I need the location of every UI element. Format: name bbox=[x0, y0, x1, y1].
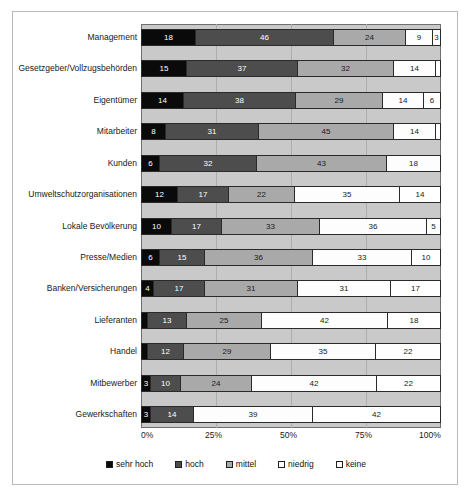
bar-segment-value: 33 bbox=[358, 253, 367, 262]
bar-segment-value: 6 bbox=[148, 159, 152, 168]
category-label: Eigentümer bbox=[0, 92, 137, 109]
bar-segment: 12 bbox=[147, 343, 183, 360]
bar-segment-value: 29 bbox=[335, 96, 344, 105]
bar-segment-value: 24 bbox=[212, 379, 221, 388]
bar-segment: 29 bbox=[295, 92, 382, 109]
legend-label: niedrig bbox=[288, 459, 314, 469]
bar-segment-value: 14 bbox=[168, 410, 177, 419]
table-row: 12293522 bbox=[141, 343, 441, 360]
bar-segment: 18 bbox=[386, 155, 441, 172]
bar-segment: 29 bbox=[183, 343, 270, 360]
bar-segment: 32 bbox=[159, 155, 256, 172]
bar-segment-value: 14 bbox=[410, 127, 419, 136]
bar-segment-value: 14 bbox=[399, 96, 408, 105]
legend-item[interactable]: mittel bbox=[226, 459, 256, 469]
x-tick-label: 25% bbox=[205, 430, 222, 440]
bar-segment: 3 bbox=[141, 375, 150, 392]
chart-legend: sehr hochhochmittelniedrigkeine bbox=[13, 455, 459, 473]
legend-swatch-icon bbox=[226, 461, 233, 468]
table-row: 417313117 bbox=[141, 280, 441, 297]
table-row: 3143942 bbox=[141, 406, 441, 423]
bar-segment-value: 36 bbox=[369, 222, 378, 231]
chart-frame: Management18462493Gesetzgeber/Vollzugsbe… bbox=[12, 11, 458, 485]
bar-segment: 9 bbox=[405, 29, 432, 46]
bar-segment-value: 46 bbox=[260, 33, 269, 42]
table-row: 13254218 bbox=[141, 312, 441, 329]
bar-segment: 14 bbox=[382, 92, 423, 109]
bar-segment-value: 17 bbox=[411, 284, 420, 293]
bar-segment: 10 bbox=[141, 218, 171, 235]
legend-label: sehr hoch bbox=[116, 459, 153, 469]
bar-segment-value: 39 bbox=[249, 410, 258, 419]
legend-item[interactable]: hoch bbox=[175, 459, 203, 469]
legend-swatch-icon bbox=[106, 461, 113, 468]
bar-segment-value: 6 bbox=[148, 253, 152, 262]
legend-item[interactable]: niedrig bbox=[278, 459, 314, 469]
bar-segment: 14 bbox=[393, 123, 435, 140]
bar-segment: 35 bbox=[270, 343, 375, 360]
category-label: Lokale Bevölkerung bbox=[0, 218, 137, 235]
legend-item[interactable]: sehr hoch bbox=[106, 459, 153, 469]
table-row: 18462493 bbox=[141, 29, 441, 46]
bar-segment-value: 15 bbox=[178, 253, 187, 262]
bar-segment: 12 bbox=[141, 186, 177, 203]
bar-segment-value: 45 bbox=[322, 127, 331, 136]
bar-segment: 36 bbox=[319, 218, 426, 235]
bar-segment-value: 35 bbox=[319, 347, 328, 356]
bar-segment: 31 bbox=[165, 123, 258, 140]
bar-segment: 8 bbox=[141, 123, 165, 140]
bar-segment-value: 22 bbox=[404, 347, 413, 356]
table-row: 615363310 bbox=[141, 249, 441, 266]
bar-segment bbox=[435, 123, 441, 140]
category-label: Presse/Medien bbox=[0, 249, 137, 266]
table-row: 310244222 bbox=[141, 375, 441, 392]
bar-segment: 17 bbox=[390, 280, 441, 297]
bar-segment-value: 38 bbox=[235, 96, 244, 105]
table-row: 15373214 bbox=[141, 60, 441, 77]
table-row: 1217223514 bbox=[141, 186, 441, 203]
x-tick-label: 50% bbox=[280, 430, 297, 440]
category-label: Umweltschutzorganisationen bbox=[0, 186, 137, 203]
table-row: 101733365 bbox=[141, 218, 441, 235]
bar-segment: 32 bbox=[297, 60, 393, 77]
bar-segment-value: 12 bbox=[155, 190, 164, 199]
bar-segment: 38 bbox=[183, 92, 295, 109]
bar-segment: 42 bbox=[251, 375, 376, 392]
bar-segment: 22 bbox=[376, 375, 441, 392]
bar-segment-value: 33 bbox=[266, 222, 275, 231]
bar-segment-value: 14 bbox=[158, 96, 167, 105]
bar-segment: 45 bbox=[258, 123, 393, 140]
bar-segment-value: 42 bbox=[372, 410, 381, 419]
bar-segment-value: 5 bbox=[431, 222, 435, 231]
category-label: Gesetzgeber/Vollzugsbehörden bbox=[0, 60, 137, 77]
bar-segment-value: 12 bbox=[161, 347, 170, 356]
bar-segment-value: 24 bbox=[365, 33, 374, 42]
x-tick-label: 75% bbox=[355, 430, 372, 440]
category-label: Lieferanten bbox=[0, 312, 137, 329]
bar-segment: 17 bbox=[177, 186, 228, 203]
legend-label: hoch bbox=[185, 459, 203, 469]
bar-segment-value: 35 bbox=[343, 190, 352, 199]
bar-segment: 6 bbox=[141, 249, 159, 266]
category-label: Kunden bbox=[0, 155, 137, 172]
category-label: Management bbox=[0, 29, 137, 46]
bar-segment-value: 14 bbox=[416, 190, 425, 199]
table-row: 8314514 bbox=[141, 123, 441, 140]
bar-segment: 42 bbox=[261, 312, 387, 329]
bar-segment: 22 bbox=[228, 186, 294, 203]
bar-segment: 36 bbox=[204, 249, 312, 266]
bar-segment-value: 3 bbox=[144, 410, 148, 419]
bar-segment: 17 bbox=[171, 218, 221, 235]
bar-segment-value: 43 bbox=[317, 159, 326, 168]
bar-segment: 14 bbox=[150, 406, 193, 423]
bar-segment: 3 bbox=[141, 406, 150, 423]
category-label: Handel bbox=[0, 343, 137, 360]
bar-segment-value: 42 bbox=[310, 379, 319, 388]
bar-segment-value: 18 bbox=[410, 316, 419, 325]
bar-segment: 33 bbox=[221, 218, 319, 235]
bar-segment: 42 bbox=[312, 406, 441, 423]
legend-item[interactable]: keine bbox=[336, 459, 366, 469]
bar-segment: 15 bbox=[159, 249, 204, 266]
bar-segment-value: 18 bbox=[409, 159, 418, 168]
bar-segment: 14 bbox=[399, 186, 441, 203]
